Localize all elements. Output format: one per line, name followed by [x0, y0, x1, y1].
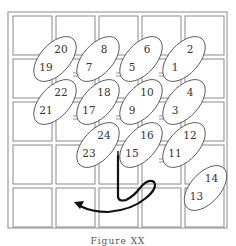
grid-cell [13, 145, 52, 184]
ellipse-label-upper: 14 [205, 172, 219, 184]
ellipse-label-upper: 20 [54, 43, 67, 55]
labeled-ellipses: 201987652122211817109432423161512111413 [26, 29, 235, 218]
ellipse-label-upper: 24 [97, 129, 111, 141]
ellipse-label-lower: 19 [39, 61, 52, 73]
ellipse-label-lower: 15 [125, 147, 138, 159]
ellipse-label-lower: 1 [172, 61, 179, 73]
ellipse-label-upper: 6 [144, 43, 151, 55]
ellipse-label-upper: 12 [183, 129, 196, 141]
ellipse-label-lower: 21 [39, 104, 52, 116]
ellipse-label-lower: 5 [129, 61, 136, 73]
ellipse-label-upper: 16 [140, 129, 154, 141]
ellipse-label-lower: 23 [82, 147, 95, 159]
ellipse-label-lower: 13 [190, 190, 203, 202]
ellipse-label-lower: 9 [129, 104, 136, 116]
ellipse-label-upper: 22 [54, 86, 67, 98]
ellipse-label-upper: 4 [187, 86, 194, 98]
ellipse-label-upper: 10 [140, 86, 153, 98]
ellipse-label-lower: 3 [172, 104, 179, 116]
ellipse-label-lower: 17 [82, 104, 95, 116]
grid-cell [56, 188, 95, 227]
ellipse-label-upper: 18 [97, 86, 110, 98]
ellipse-label-lower: 11 [168, 147, 181, 159]
ellipse-label-lower: 7 [86, 61, 93, 73]
grid-cell [142, 188, 181, 227]
figure-caption: Figure XX [0, 236, 236, 246]
ellipse-label-upper: 2 [187, 43, 194, 55]
ellipse-label-upper: 8 [101, 43, 108, 55]
grid-cell [13, 188, 52, 227]
